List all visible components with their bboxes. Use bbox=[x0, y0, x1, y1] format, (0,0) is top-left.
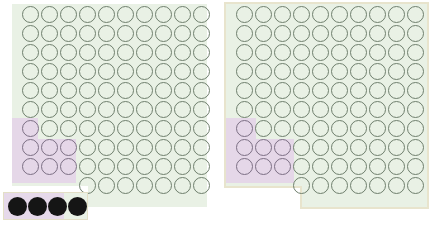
grid-circle[interactable] bbox=[60, 101, 77, 118]
grid-circle[interactable] bbox=[193, 139, 210, 156]
grid-circle[interactable] bbox=[79, 63, 96, 80]
grid-circle[interactable] bbox=[274, 120, 291, 137]
grid-circle[interactable] bbox=[293, 101, 310, 118]
grid-circle[interactable] bbox=[293, 6, 310, 23]
grid-circle[interactable] bbox=[136, 120, 153, 137]
grid-circle[interactable] bbox=[79, 101, 96, 118]
grid-circle-tail[interactable] bbox=[350, 177, 367, 194]
grid-circle[interactable] bbox=[41, 101, 58, 118]
grid-circle[interactable] bbox=[388, 120, 405, 137]
grid-circle[interactable] bbox=[41, 44, 58, 61]
left-panel[interactable] bbox=[0, 0, 212, 230]
grid-circle[interactable] bbox=[293, 120, 310, 137]
grid-circle[interactable] bbox=[155, 44, 172, 61]
grid-circle[interactable] bbox=[369, 44, 386, 61]
grid-circle[interactable] bbox=[193, 120, 210, 137]
grid-circle[interactable] bbox=[369, 120, 386, 137]
grid-circle[interactable] bbox=[136, 82, 153, 99]
grid-circle[interactable] bbox=[98, 158, 115, 175]
grid-circle[interactable] bbox=[350, 25, 367, 42]
grid-circle[interactable] bbox=[117, 158, 134, 175]
grid-circle[interactable] bbox=[255, 25, 272, 42]
grid-circle[interactable] bbox=[312, 120, 329, 137]
grid-circle[interactable] bbox=[98, 82, 115, 99]
grid-circle[interactable] bbox=[388, 101, 405, 118]
grid-circle[interactable] bbox=[312, 158, 329, 175]
grid-circle[interactable] bbox=[41, 25, 58, 42]
grid-circle[interactable] bbox=[312, 25, 329, 42]
grid-circle[interactable] bbox=[274, 139, 291, 156]
grid-circle[interactable] bbox=[117, 139, 134, 156]
grid-circle[interactable] bbox=[388, 63, 405, 80]
grid-circle[interactable] bbox=[41, 63, 58, 80]
grid-circle[interactable] bbox=[98, 6, 115, 23]
grid-circle[interactable] bbox=[274, 25, 291, 42]
grid-circle[interactable] bbox=[369, 139, 386, 156]
grid-circle[interactable] bbox=[98, 25, 115, 42]
grid-circle[interactable] bbox=[79, 6, 96, 23]
grid-circle[interactable] bbox=[236, 120, 253, 137]
grid-circle[interactable] bbox=[255, 120, 272, 137]
grid-circle[interactable] bbox=[22, 63, 39, 80]
grid-circle[interactable] bbox=[274, 44, 291, 61]
grid-circle-tail[interactable] bbox=[155, 177, 172, 194]
grid-circle-tail[interactable] bbox=[117, 177, 134, 194]
grid-circle[interactable] bbox=[350, 139, 367, 156]
grid-circle[interactable] bbox=[193, 6, 210, 23]
grid-circle[interactable] bbox=[369, 158, 386, 175]
grid-circle[interactable] bbox=[174, 139, 191, 156]
grid-circle[interactable] bbox=[155, 82, 172, 99]
grid-circle[interactable] bbox=[117, 120, 134, 137]
grid-circle[interactable] bbox=[312, 82, 329, 99]
grid-circle[interactable] bbox=[60, 158, 77, 175]
grid-circle[interactable] bbox=[193, 101, 210, 118]
grid-circle[interactable] bbox=[174, 158, 191, 175]
grid-circle[interactable] bbox=[155, 101, 172, 118]
grid-circle[interactable] bbox=[312, 101, 329, 118]
grid-circle[interactable] bbox=[155, 25, 172, 42]
grid-circle[interactable] bbox=[60, 139, 77, 156]
grid-circle[interactable] bbox=[117, 44, 134, 61]
grid-circle[interactable] bbox=[193, 82, 210, 99]
grid-circle[interactable] bbox=[41, 158, 58, 175]
grid-circle-tail[interactable] bbox=[369, 177, 386, 194]
strip-dot[interactable] bbox=[48, 197, 67, 216]
grid-circle[interactable] bbox=[60, 44, 77, 61]
grid-circle[interactable] bbox=[388, 158, 405, 175]
grid-circle[interactable] bbox=[293, 139, 310, 156]
grid-circle[interactable] bbox=[293, 158, 310, 175]
right-panel[interactable] bbox=[222, 0, 440, 230]
grid-circle[interactable] bbox=[22, 44, 39, 61]
grid-circle[interactable] bbox=[369, 63, 386, 80]
grid-circle[interactable] bbox=[350, 44, 367, 61]
grid-circle[interactable] bbox=[331, 139, 348, 156]
grid-circle[interactable] bbox=[350, 82, 367, 99]
grid-circle[interactable] bbox=[41, 6, 58, 23]
grid-circle[interactable] bbox=[60, 6, 77, 23]
grid-circle[interactable] bbox=[350, 6, 367, 23]
grid-circle[interactable] bbox=[255, 139, 272, 156]
grid-circle[interactable] bbox=[22, 139, 39, 156]
grid-circle[interactable] bbox=[22, 101, 39, 118]
grid-circle[interactable] bbox=[155, 158, 172, 175]
grid-circle-tail[interactable] bbox=[331, 177, 348, 194]
grid-circle-tail[interactable] bbox=[193, 177, 210, 194]
grid-circle[interactable] bbox=[388, 25, 405, 42]
grid-circle[interactable] bbox=[98, 139, 115, 156]
grid-circle[interactable] bbox=[407, 158, 424, 175]
grid-circle[interactable] bbox=[350, 120, 367, 137]
grid-circle[interactable] bbox=[60, 63, 77, 80]
grid-circle[interactable] bbox=[79, 82, 96, 99]
grid-circle[interactable] bbox=[22, 120, 39, 137]
grid-circle[interactable] bbox=[388, 82, 405, 99]
grid-circle[interactable] bbox=[136, 63, 153, 80]
grid-circle[interactable] bbox=[236, 158, 253, 175]
grid-circle-tail[interactable] bbox=[136, 177, 153, 194]
grid-circle[interactable] bbox=[22, 6, 39, 23]
grid-circle[interactable] bbox=[79, 120, 96, 137]
grid-circle[interactable] bbox=[236, 139, 253, 156]
strip-dot[interactable] bbox=[28, 197, 47, 216]
grid-circle[interactable] bbox=[60, 25, 77, 42]
grid-circle[interactable] bbox=[22, 158, 39, 175]
grid-circle[interactable] bbox=[60, 120, 77, 137]
